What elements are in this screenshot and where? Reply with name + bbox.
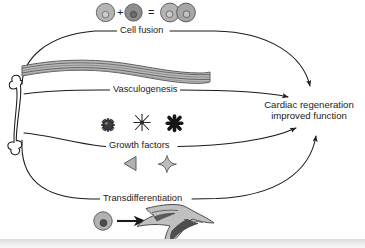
pathway-line-cell-fusion [22, 31, 117, 84]
pathway-line-growth-factors [24, 133, 106, 147]
round-cell-icon [94, 212, 112, 230]
diagram-vector-layer [0, 0, 365, 248]
blood-vessel-icon [20, 59, 212, 84]
fused-binucleate-cell-icon [161, 3, 196, 22]
pathway-label-growth-factors: Growth factors [106, 140, 172, 150]
pathway-label-vasculogenesis: Vasculogenesis [110, 84, 180, 94]
pathway-label-cell-fusion: Cell fusion [117, 25, 166, 35]
left-triangle-icon [124, 157, 136, 171]
spiky-ball-icon [101, 118, 115, 132]
equals-symbol: = [148, 6, 154, 18]
four-point-star-icon [158, 156, 176, 173]
thin-star-icon [134, 114, 150, 130]
bone-icon [8, 75, 22, 155]
footer-strip [0, 239, 365, 248]
outcome-label-line2: improved function [251, 111, 365, 121]
plus-symbol: + [117, 6, 123, 18]
dark-cell-icon [125, 4, 142, 21]
light-cell-icon [96, 3, 114, 21]
pathway-line-vasculogenesis-right [180, 90, 288, 97]
pathway-line-vasculogenesis [24, 90, 110, 94]
pathway-line-transdifferentiation [22, 140, 100, 199]
diagram-canvas: Cell fusion Vasculogenesis Growth factor… [0, 0, 365, 248]
pathway-line-growth-factors-right [178, 128, 296, 147]
pathway-label-transdifferentiation: Transdifferentiation [100, 193, 185, 203]
thick-asterisk-icon [167, 116, 181, 131]
outcome-label-line1: Cardiac regeneration [251, 100, 365, 110]
